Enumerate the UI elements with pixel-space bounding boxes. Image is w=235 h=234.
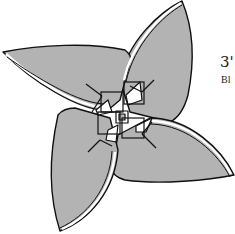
petal-lower-left [51, 108, 118, 231]
origami-flower-diagram [0, 0, 235, 234]
petal-left-upper [3, 45, 131, 110]
step-caption: Bl [221, 74, 230, 85]
step-number: 3' [220, 53, 234, 71]
